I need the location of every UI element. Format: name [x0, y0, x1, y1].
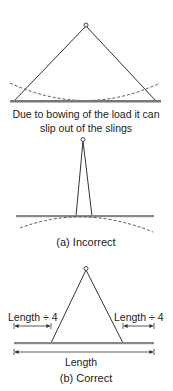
left-sling [76, 141, 83, 216]
bowing-caption-line1: Due to bowing of the load it can [12, 108, 159, 120]
bowing-load-figure [10, 23, 161, 103]
bowing-curve [10, 83, 160, 101]
left-quarter-label: Length ÷ 4 [8, 311, 58, 323]
incorrect-caption: (a) Incorrect [56, 236, 115, 248]
load-bar [14, 342, 154, 344]
left-sling [14, 26, 86, 101]
right-sling [86, 26, 156, 101]
incorrect-figure [16, 138, 154, 233]
right-quarter-label: Length ÷ 4 [114, 311, 164, 323]
bowing-curve [20, 217, 153, 232]
right-sling [83, 141, 92, 216]
correct-caption: (b) Correct [60, 372, 113, 384]
sling-load-diagram: Due to bowing of the load it can slip ou… [0, 0, 173, 391]
overall-length-label: Length [65, 356, 97, 368]
right-sling [86, 270, 123, 343]
left-sling [51, 270, 86, 343]
hook-icon [81, 138, 85, 142]
hook-icon [84, 267, 88, 271]
load-bar [10, 100, 161, 103]
hook-icon [84, 23, 88, 27]
bowing-caption-line2: slip out of the slings [40, 122, 132, 134]
